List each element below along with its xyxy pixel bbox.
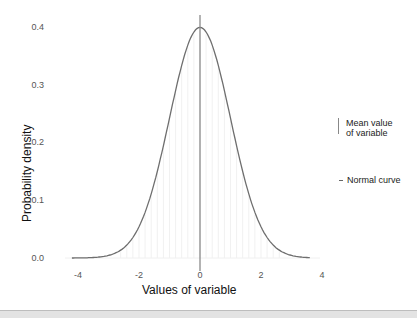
x-tick-label: -4 — [68, 270, 88, 280]
x-tick-label: 4 — [312, 270, 332, 280]
y-tick-label: 0.3 — [14, 80, 44, 90]
y-tick-label: 0.0 — [14, 253, 44, 263]
window-bottom-edge — [0, 310, 417, 318]
legend-key-mean-line — [338, 118, 339, 134]
normal-curve — [72, 27, 310, 258]
y-tick-label: 0.4 — [14, 22, 44, 32]
x-tick-label: -2 — [129, 270, 149, 280]
legend-label-mean-1: Mean value — [346, 118, 393, 128]
legend-item-normal-curve: Normal curve — [347, 175, 401, 185]
x-tick-label: 2 — [251, 270, 271, 280]
legend-item-mean: Mean value of variable — [346, 118, 393, 138]
y-axis-label: Probability density — [20, 125, 34, 222]
x-axis-label: Values of variable — [142, 283, 237, 297]
legend-key-normal-curve — [339, 180, 343, 181]
legend-label-mean-2: of variable — [346, 128, 393, 138]
x-tick-label: 0 — [190, 270, 210, 280]
